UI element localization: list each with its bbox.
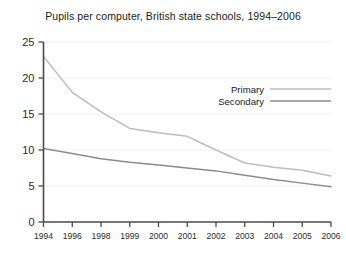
y-tick-label: 20 [22, 72, 34, 84]
x-tick-label: 2002 [206, 231, 225, 241]
series-line-primary [44, 56, 332, 176]
y-tick-label: 0 [28, 216, 34, 228]
x-tick-label: 2000 [149, 231, 168, 241]
data-series-group [44, 56, 332, 186]
x-tick-label: 1999 [120, 231, 139, 241]
legend-label-secondary: Secondary [218, 96, 264, 107]
y-axis [39, 42, 44, 222]
y-tick-label: 10 [22, 144, 34, 156]
series-line-secondary [44, 149, 332, 187]
x-tick-label: 2004 [264, 231, 283, 241]
x-tick-label: 1994 [34, 231, 53, 241]
x-tick-label: 2006 [321, 231, 340, 241]
y-tick-label: 5 [28, 180, 34, 192]
chart-container: Pupils per computer, British state schoo… [0, 0, 346, 258]
legend-label-primary: Primary [231, 84, 264, 95]
line-chart-plot: 0510152025 19941996199819992000200120022… [0, 0, 346, 258]
y-tick-labels: 0510152025 [22, 36, 34, 228]
x-tick-label: 2001 [178, 231, 197, 241]
x-tick-label: 2003 [235, 231, 254, 241]
x-tick-labels: 1994199619981999200020012002200320042005… [34, 231, 341, 241]
gridlines-group [44, 42, 332, 186]
chart-legend: PrimarySecondary [218, 84, 331, 107]
x-tick-label: 1998 [91, 231, 110, 241]
x-tick-label: 1996 [63, 231, 82, 241]
x-tick-label: 2005 [293, 231, 312, 241]
y-tick-label: 25 [22, 36, 34, 48]
y-tick-label: 15 [22, 108, 34, 120]
x-axis [44, 222, 332, 227]
